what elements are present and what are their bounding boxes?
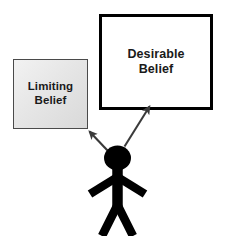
figure-head-icon xyxy=(104,146,131,171)
diagram-canvas: Limiting Belief Desirable Belief xyxy=(0,0,226,236)
stick-figure[interactable] xyxy=(0,0,226,236)
figure-leg-right xyxy=(118,205,134,236)
